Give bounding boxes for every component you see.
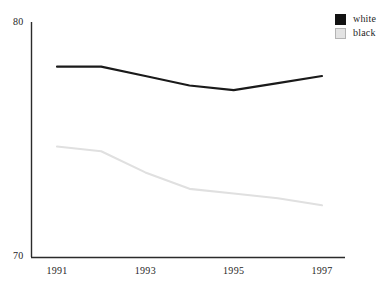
legend-swatch-icon-white bbox=[335, 14, 346, 25]
series-group bbox=[57, 67, 322, 206]
x-axis-tick-label-1995: 1995 bbox=[223, 265, 244, 276]
y-axis-tick-label-bottom: 70 bbox=[13, 251, 23, 261]
legend-swatch-icon-black bbox=[335, 28, 346, 39]
chart-legend: whiteblack bbox=[335, 12, 391, 40]
legend-item-black[interactable]: black bbox=[335, 26, 391, 40]
legend-label-white: white bbox=[353, 13, 376, 25]
line-chart: 80 70 1991199319951997 whiteblack bbox=[0, 0, 392, 299]
plot-canvas bbox=[0, 0, 392, 299]
y-axis-tick-label-top: 80 bbox=[13, 17, 23, 27]
x-axis-tick-label-1993: 1993 bbox=[135, 265, 156, 276]
x-axis-tick-label-1991: 1991 bbox=[46, 265, 67, 276]
axes-group bbox=[31, 22, 345, 258]
legend-item-white[interactable]: white bbox=[335, 12, 391, 26]
legend-label-black: black bbox=[353, 27, 376, 39]
x-axis-tick-label-1997: 1997 bbox=[311, 265, 332, 276]
series-line-black bbox=[57, 147, 322, 206]
series-line-white bbox=[57, 67, 322, 91]
